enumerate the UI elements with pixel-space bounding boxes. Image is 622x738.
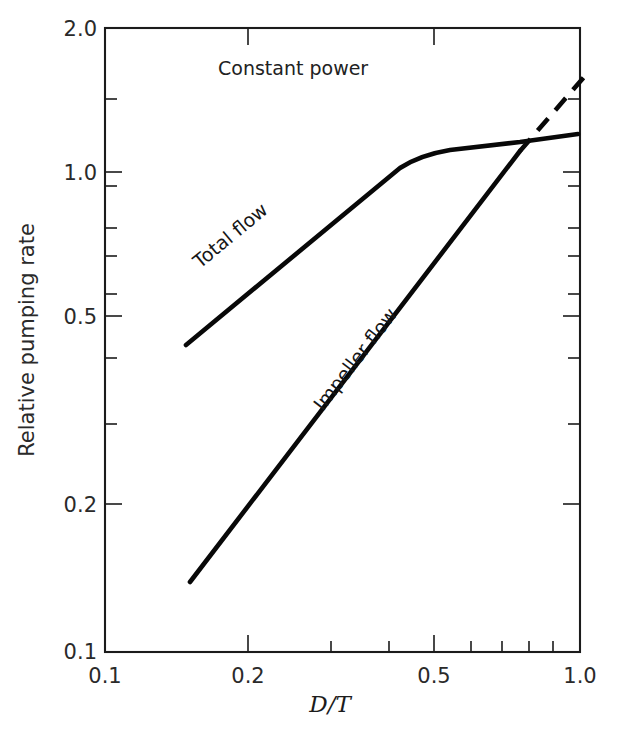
chart-page: 2.0 1.0 0.5 0.2 0.1 0.1 0.2 0.5 1.0 D/T … bbox=[0, 0, 622, 738]
y-tick-label-0-1: 0.1 bbox=[64, 640, 97, 664]
x-tick-label-0-5: 0.5 bbox=[417, 664, 450, 688]
chart-background bbox=[0, 0, 622, 738]
x-axis-title: D/T bbox=[308, 691, 352, 717]
y-tick-label-1-0: 1.0 bbox=[64, 161, 97, 185]
y-tick-label-0-5: 0.5 bbox=[64, 305, 97, 329]
y-tick-label-2-0: 2.0 bbox=[64, 17, 97, 41]
x-tick-label-0-2: 0.2 bbox=[231, 664, 264, 688]
pumping-rate-log-log-chart: 2.0 1.0 0.5 0.2 0.1 0.1 0.2 0.5 1.0 D/T … bbox=[0, 0, 622, 738]
y-axis-title: Relative pumping rate bbox=[15, 223, 39, 457]
x-tick-label-0-1: 0.1 bbox=[88, 664, 121, 688]
constant-power-annotation: Constant power bbox=[218, 57, 368, 79]
x-tick-label-1-0: 1.0 bbox=[563, 664, 596, 688]
y-tick-label-0-2: 0.2 bbox=[64, 493, 97, 517]
